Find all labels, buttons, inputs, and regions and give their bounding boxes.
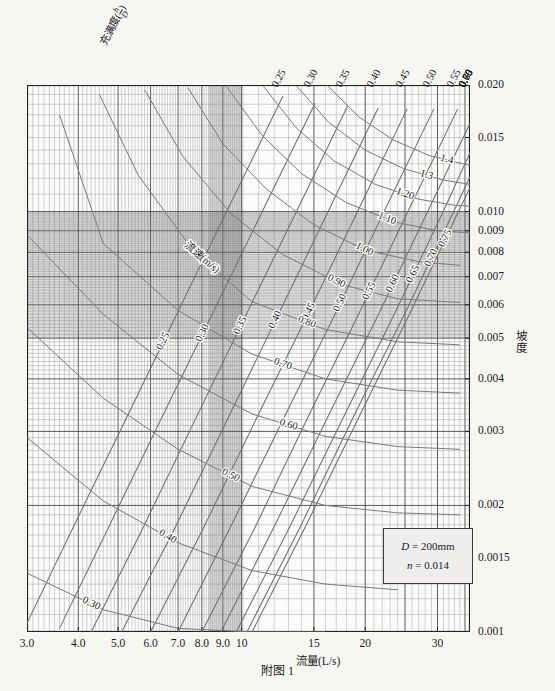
y-axis-tick-label: 0.007: [478, 270, 504, 282]
y-axis-tick-label: 0.006: [478, 298, 504, 310]
y-axis-tick-label: 0.009: [478, 224, 504, 236]
legend-diameter-row: D = 200mm: [401, 537, 454, 556]
parameter-legend-box: D = 200mm n = 0.014: [383, 528, 473, 584]
y-axis-tick-label: 0.008: [478, 245, 504, 257]
y-axis-tick-label: 0.010: [478, 205, 504, 217]
y-axis-tick-label: 0.002: [478, 498, 504, 510]
x-axis-tick-label: 15: [298, 637, 330, 649]
x-axis-tick-label: 3.0: [11, 637, 43, 649]
y-axis-tick-label: 0.003: [478, 424, 504, 436]
x-axis-tick-label: 5.0: [102, 637, 134, 649]
top-axis-title-prefix: 充满度(: [98, 12, 123, 47]
legend-diameter-symbol: D: [401, 540, 409, 552]
legend-diameter-equals: =: [412, 540, 418, 552]
x-axis-tick-label: 30: [421, 637, 453, 649]
x-axis-tick-label: 20: [349, 637, 381, 649]
y-axis-tick-label: 0.001: [478, 625, 504, 637]
dense-band-vertical: [208, 85, 243, 632]
legend-roughness-row: n = 0.014: [407, 556, 449, 575]
legend-roughness-value: 0.014: [424, 559, 449, 571]
top-axis-title: 充满度(hD): [95, 2, 132, 49]
y-axis-tick-label: 0.005: [478, 331, 504, 343]
x-axis-tick-label: 10: [226, 637, 258, 649]
y-axis-tick-label: 0.015: [478, 131, 504, 143]
legend-roughness-equals: =: [415, 559, 421, 571]
figure-caption: 附图 1: [0, 661, 555, 679]
dense-band-horizontal: [27, 212, 470, 339]
legend-diameter-value: 200mm: [421, 540, 455, 552]
y-axis-title: 坡度: [513, 330, 529, 354]
legend-roughness-symbol: n: [407, 559, 413, 571]
y-axis-tick-label: 0.0015: [478, 551, 510, 563]
y-axis-tick-label: 0.004: [478, 372, 504, 384]
x-axis-tick-label: 4.0: [62, 637, 94, 649]
y-axis-tick-label: 0.020: [478, 78, 504, 90]
